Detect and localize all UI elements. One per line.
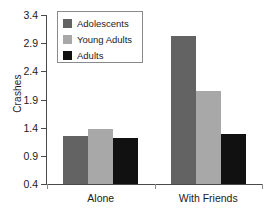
y-tick-label: 3.4 <box>4 10 38 21</box>
y-tick-mark <box>41 71 47 72</box>
legend-swatch-icon <box>63 51 72 60</box>
bar <box>171 36 196 184</box>
y-tick-label: 1.9 <box>4 95 38 106</box>
x-axis-group-label: Alone <box>46 192 156 204</box>
y-tick-mark <box>41 100 47 101</box>
bar <box>63 136 88 184</box>
legend-item-label: Young Adults <box>77 35 132 45</box>
legend-swatch-icon <box>63 19 72 28</box>
x-tick-mark <box>47 184 48 189</box>
y-tick-label: 0.4 <box>4 179 38 190</box>
legend-item: Young Adults <box>63 32 142 47</box>
x-tick-mark <box>262 184 263 189</box>
x-tick-mark <box>155 184 156 189</box>
bar <box>196 91 221 184</box>
y-tick-mark <box>41 156 47 157</box>
bar-chart: Crashes 3.42.92.41.91.40.90.4 AloneWith … <box>0 0 271 215</box>
legend-item: Adolescents <box>63 16 142 31</box>
legend-item-label: Adolescents <box>77 19 129 29</box>
y-tick-label: 1.4 <box>4 123 38 134</box>
y-tick-label: 2.4 <box>4 66 38 77</box>
legend-item: Adults <box>63 48 142 63</box>
y-tick-mark <box>41 43 47 44</box>
legend-item-label: Adults <box>77 51 103 61</box>
bar <box>113 138 138 184</box>
y-tick-label: 2.9 <box>4 38 38 49</box>
y-tick-label: 0.9 <box>4 151 38 162</box>
bar <box>221 134 246 184</box>
y-tick-mark <box>41 128 47 129</box>
legend: AdolescentsYoung AdultsAdults <box>57 11 143 63</box>
bar <box>88 129 113 184</box>
y-tick-mark <box>41 15 47 16</box>
x-axis-group-label: With Friends <box>153 192 263 204</box>
legend-swatch-icon <box>63 35 72 44</box>
